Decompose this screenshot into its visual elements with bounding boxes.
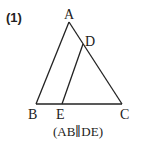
label-d: D (85, 34, 95, 49)
label-c: C (120, 107, 129, 122)
triangle-diagram: (1) A D B E C (AB∥DE) (0, 0, 142, 147)
label-e: E (56, 107, 65, 122)
label-b: B (28, 107, 37, 122)
problem-number: (1) (6, 10, 22, 25)
segment-ab (36, 22, 69, 104)
segment-de (62, 44, 83, 104)
parallel-caption: (AB∥DE) (53, 124, 103, 139)
label-a: A (64, 7, 75, 22)
